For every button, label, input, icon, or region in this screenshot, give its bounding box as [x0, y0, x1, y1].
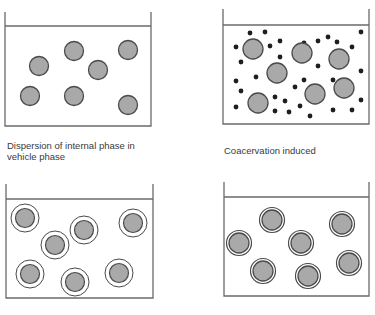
coacervate-dot: [263, 30, 268, 35]
core-droplet: [110, 264, 129, 283]
core-droplet: [66, 273, 85, 292]
internal-phase-droplet: [65, 87, 84, 106]
coacervate-dot: [248, 31, 253, 36]
coacervate-dot: [308, 114, 313, 119]
coacervate-dot: [278, 39, 283, 44]
core-droplet: [253, 261, 273, 281]
internal-phase-droplet: [243, 39, 263, 59]
coacervate-dot: [234, 45, 239, 50]
coacervate-dot: [331, 78, 336, 83]
internal-phase-droplet: [119, 41, 138, 60]
coacervate-dot: [302, 78, 307, 83]
internal-phase-droplet: [292, 43, 312, 63]
coacervate-dot: [359, 98, 364, 103]
core-droplet: [21, 265, 40, 284]
coacervate-dot: [316, 64, 321, 69]
coacervate-dot: [234, 79, 239, 84]
coacervate-dot: [326, 35, 331, 40]
coacervate-dot: [316, 39, 321, 44]
internal-phase-droplet: [329, 49, 349, 69]
coacervate-dot: [359, 69, 364, 74]
core-droplet: [291, 233, 311, 253]
coacervate-dot: [278, 55, 283, 60]
coacervate-dot: [293, 85, 298, 90]
coacervate-dot: [268, 44, 273, 49]
beaker-coacervation: [223, 9, 369, 124]
coacervate-dot: [239, 60, 244, 65]
core-droplet: [332, 214, 352, 234]
coacervate-dot: [298, 104, 303, 109]
coacervate-dot: [350, 45, 355, 50]
internal-phase-droplet: [21, 87, 40, 106]
coacervate-dot: [273, 109, 278, 114]
coacervate-dot: [234, 105, 239, 110]
internal-phase-droplet: [248, 93, 268, 113]
internal-phase-droplet: [89, 61, 108, 80]
internal-phase-droplet: [65, 42, 84, 61]
label-dispersion-line2: vehicle phase: [7, 151, 135, 162]
internal-phase-droplet: [119, 96, 138, 115]
core-droplet: [298, 266, 318, 286]
core-droplet: [75, 221, 94, 240]
label-coacervation: Coacervation induced: [224, 145, 316, 156]
internal-phase-droplet: [30, 57, 49, 76]
core-droplet: [124, 214, 143, 233]
label-dispersion: Dispersion of internal phase in vehicle …: [7, 140, 135, 162]
coacervate-dot: [239, 89, 244, 94]
coacervate-dot: [254, 75, 259, 80]
core-droplet: [16, 209, 35, 228]
coacervate-dot: [359, 30, 364, 35]
coacervate-dot: [335, 40, 340, 45]
core-droplet: [339, 253, 359, 273]
core-droplet: [229, 233, 249, 253]
coacervate-dot: [350, 108, 355, 113]
coacervate-dot: [287, 110, 292, 115]
label-dispersion-line1: Dispersion of internal phase in: [7, 140, 135, 151]
internal-phase-droplet: [334, 78, 354, 98]
coacervate-dot: [283, 99, 288, 104]
coacervate-dot: [331, 108, 336, 113]
coacervate-dot: [273, 95, 278, 100]
core-droplet: [262, 210, 282, 230]
internal-phase-droplet: [267, 63, 287, 83]
internal-phase-droplet: [305, 84, 325, 104]
core-droplet: [46, 236, 65, 255]
